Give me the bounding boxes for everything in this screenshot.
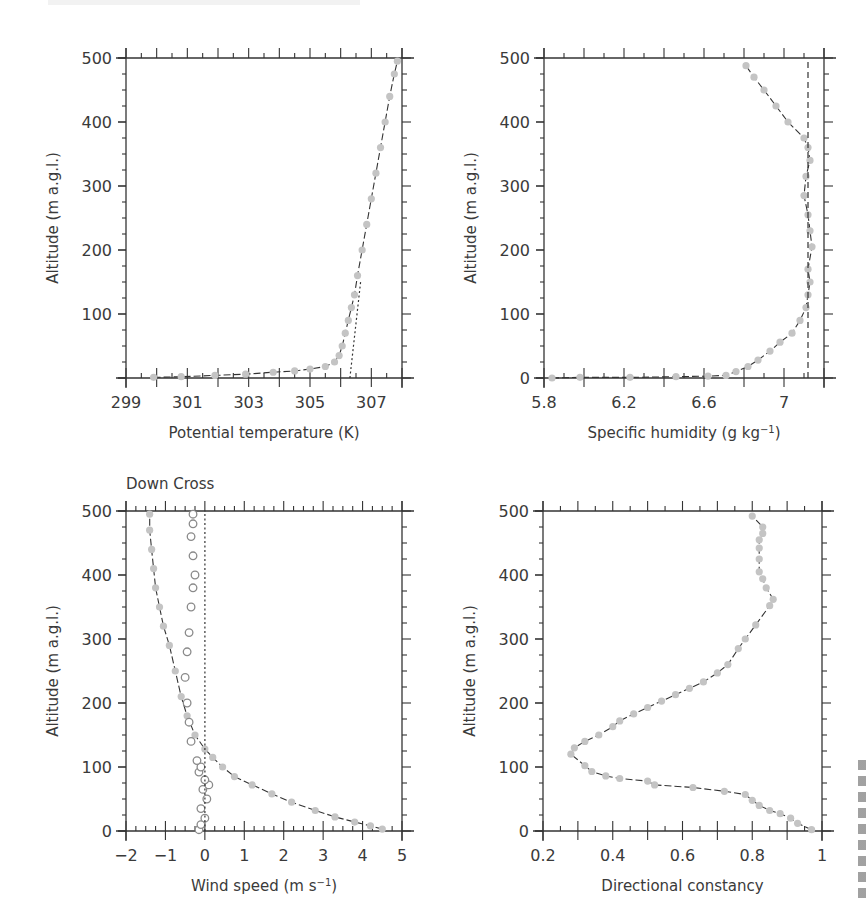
- data-point-open: [189, 584, 197, 592]
- y-tick-label: 300: [498, 630, 529, 649]
- x-tick-label: 1: [239, 846, 249, 865]
- y-tick-label: 300: [81, 177, 112, 196]
- x-tick-label: −2: [114, 846, 138, 865]
- y-tick-label: 500: [498, 502, 529, 521]
- data-point: [322, 363, 329, 370]
- data-point: [759, 530, 766, 537]
- data-point: [377, 144, 384, 151]
- data-point: [270, 369, 277, 376]
- x-tick-label: 5.8: [531, 393, 556, 412]
- y-tick-label: 500: [81, 49, 112, 68]
- x-tick-label: 307: [356, 393, 387, 412]
- data-point: [602, 772, 609, 779]
- data-point: [800, 134, 807, 141]
- data-point: [152, 584, 159, 591]
- y-tick-label: 100: [81, 758, 112, 777]
- data-point-open: [197, 805, 205, 813]
- y-tick-label: 200: [498, 694, 529, 713]
- x-axis-label: Wind speed (m s−1): [191, 877, 337, 896]
- data-point: [630, 710, 637, 717]
- data-point: [548, 374, 555, 381]
- y-tick-label: 400: [498, 566, 529, 585]
- data-point: [209, 754, 216, 761]
- data-point: [721, 788, 728, 795]
- y-tick-label: 500: [81, 502, 112, 521]
- data-point-open: [183, 699, 191, 707]
- data-point: [595, 731, 602, 738]
- figure: 100200300400500299301303305307Potential …: [0, 0, 866, 902]
- data-point: [759, 523, 766, 530]
- data-point: [345, 317, 352, 324]
- data-point: [732, 368, 739, 375]
- data-point-open: [187, 603, 195, 611]
- x-tick-label: 0: [200, 846, 210, 865]
- data-point: [581, 762, 588, 769]
- data-point: [759, 575, 766, 582]
- data-point: [150, 565, 157, 572]
- y-tick-label: 200: [81, 694, 112, 713]
- data-point-open: [189, 552, 197, 560]
- data-point-open: [187, 738, 195, 746]
- x-axis-label: Directional constancy: [601, 877, 763, 895]
- x-tick-label: 0.6: [670, 846, 695, 865]
- x-tick-label: 301: [172, 393, 203, 412]
- data-point: [242, 371, 249, 378]
- data-point-open: [193, 757, 201, 765]
- x-axis-label: Specific humidity (g kg−1): [587, 424, 780, 443]
- data-point-open: [189, 510, 197, 518]
- data-point: [146, 511, 153, 518]
- x-tick-label: 6.2: [611, 393, 636, 412]
- x-tick-label: 4: [357, 846, 367, 865]
- data-point-open: [183, 648, 191, 656]
- data-point: [756, 802, 763, 809]
- x-tick-label: −1: [154, 846, 178, 865]
- data-point: [249, 781, 256, 788]
- y-axis-label: Altitude (m a.g.l.): [44, 605, 62, 737]
- data-point: [744, 363, 751, 370]
- data-point: [672, 691, 679, 698]
- y-tick-label: 400: [499, 113, 530, 132]
- x-tick-label: 7: [779, 393, 789, 412]
- data-point: [784, 118, 791, 125]
- data-point: [742, 791, 749, 798]
- data-point: [339, 342, 346, 349]
- data-point: [219, 763, 226, 770]
- data-point: [166, 642, 173, 649]
- x-tick-label: 1: [817, 846, 827, 865]
- data-point: [750, 74, 757, 81]
- data-point: [776, 339, 783, 346]
- x-tick-label: 2: [279, 846, 289, 865]
- data-point: [354, 272, 361, 279]
- x-tick-label: 303: [233, 393, 264, 412]
- data-point: [571, 744, 578, 751]
- data-series: [548, 62, 815, 382]
- data-point: [704, 372, 711, 379]
- data-point: [386, 93, 393, 100]
- data-point: [351, 818, 358, 825]
- y-tick-label: 100: [81, 305, 112, 324]
- data-point: [616, 775, 623, 782]
- y-tick-label: 300: [499, 177, 530, 196]
- data-point: [382, 118, 389, 125]
- y-tick-label: 0: [519, 822, 529, 841]
- caption-sidebar: [858, 760, 866, 900]
- data-point: [312, 807, 319, 814]
- data-point: [763, 584, 770, 591]
- data-point: [644, 704, 651, 711]
- data-point: [372, 170, 379, 177]
- data-point: [581, 738, 588, 745]
- data-point: [756, 536, 763, 543]
- data-point: [331, 358, 338, 365]
- data-point: [794, 820, 801, 827]
- y-tick-label: 0: [520, 369, 530, 388]
- data-point: [777, 810, 784, 817]
- data-point: [756, 555, 763, 562]
- data-point: [788, 330, 795, 337]
- data-point: [336, 352, 343, 359]
- data-point: [160, 623, 167, 630]
- data-point: [616, 717, 623, 724]
- data-point: [391, 70, 398, 77]
- data-point: [742, 635, 749, 642]
- data-point: [211, 372, 218, 379]
- data-point-open: [203, 795, 211, 803]
